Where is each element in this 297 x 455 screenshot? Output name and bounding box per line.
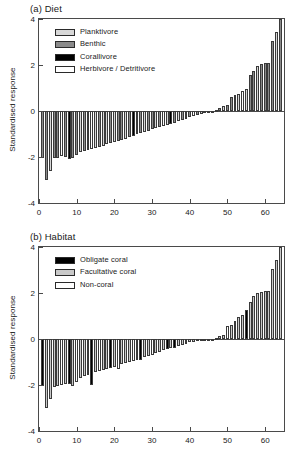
bar [249,302,252,339]
bar [71,111,74,158]
x-axis-tick-label: 0 [37,431,41,445]
bar [68,339,71,384]
legend-label: Obligate coral [80,255,128,266]
legend-swatch [55,41,75,48]
legend-swatch [55,29,75,36]
bar [218,108,221,111]
legend-swatch [55,54,75,61]
legend-entry: Planktivore [55,27,155,38]
bar [271,41,274,111]
x-axis-tick-mark [39,427,40,431]
x-axis-tick-label: 0 [37,203,41,217]
panel-b-plot-area: Obligate coralFacultative coralNon-coral… [38,246,285,432]
bar [102,111,105,146]
x-axis-tick-mark [152,427,153,431]
bar [71,339,74,386]
bar [185,339,188,344]
bar [128,339,131,362]
bar [120,111,123,140]
y-axis-tick-label: -4 [9,427,39,436]
bar [158,339,161,352]
bar [136,111,139,134]
bar [203,339,206,341]
legend-label: Non-coral [80,280,113,291]
bar [143,111,146,132]
bar [45,111,48,180]
bar [264,63,267,111]
y-axis-tick-label: 4 [9,243,39,252]
x-axis-tick-mark [227,427,228,431]
bar [226,326,229,339]
bar [128,111,131,137]
bar [252,71,255,111]
legend-swatch [55,257,75,264]
bar [245,89,248,111]
bar [154,111,157,128]
legend-label: Planktivore [80,27,118,38]
bar [203,111,206,113]
bar [181,111,184,120]
bar [109,111,112,143]
bar [79,111,82,152]
bar [56,111,59,158]
bar [120,339,123,364]
bar [181,339,184,345]
bar [279,19,282,111]
legend-label: Corallivore [80,52,117,63]
y-axis-tick-mark [39,19,43,20]
bar [260,292,263,339]
bar [192,111,195,116]
bar [256,66,259,111]
legend-label: Herbivore / Detritivore [80,64,155,75]
bar [215,338,218,340]
bar [177,339,180,346]
bar [124,339,127,363]
bar [177,111,180,121]
y-axis-tick-label: -4 [9,199,39,208]
panel-a-plot-area: PlanktivoreBenthicCorallivoreHerbivore /… [38,18,285,204]
bar [245,310,248,339]
y-axis-tick-label: 0 [9,335,39,344]
bar [151,111,154,129]
bar [256,293,259,339]
x-axis-tick-label: 30 [148,203,157,217]
bar [192,339,195,342]
x-axis-tick-mark [152,199,153,203]
bar [215,110,218,112]
bar [264,291,267,339]
x-axis-tick-mark [190,427,191,431]
bar [267,291,270,339]
bar [151,339,154,355]
x-axis-tick-label: 40 [185,431,194,445]
bar [87,111,90,150]
bar [68,111,71,159]
bar [102,339,105,370]
legend-entry: Herbivore / Detritivore [55,64,155,75]
bar [230,97,233,111]
bar [173,111,176,123]
bar [154,339,157,353]
bar [166,339,169,349]
y-axis-tick-mark [39,247,43,248]
bar [234,95,237,111]
legend-entry: Benthic [55,39,155,50]
panel-diet: (a) Diet Standardised response Planktivo… [0,0,297,227]
bar [207,339,210,341]
y-axis-tick-mark [39,293,43,294]
bar [75,111,78,155]
x-axis-tick-label: 30 [148,431,157,445]
x-axis-tick-mark [227,199,228,203]
bar [230,325,233,339]
bar [113,339,116,367]
bar [234,321,237,339]
bar [169,339,172,348]
bar [109,339,112,368]
bar [158,111,161,127]
bar [41,111,44,158]
bar [222,106,225,111]
x-axis-tick-mark [190,199,191,203]
y-axis-tick-mark [39,339,43,340]
legend-swatch [55,282,75,289]
bar [83,111,86,151]
bar [222,335,225,339]
